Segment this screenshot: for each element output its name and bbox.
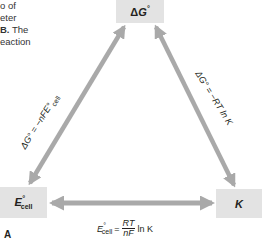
node-k: K <box>216 189 262 218</box>
fraction-rt-nf: RT nF <box>122 219 136 238</box>
e-cell-label: E°cell <box>15 195 33 210</box>
node-e-cell: E°cell <box>0 187 47 218</box>
delta-g-label: ΔKG° <box>130 5 149 18</box>
equation-ecell-k: E°cell = RT nF ln K <box>97 219 153 238</box>
node-delta-g: ΔKG° <box>116 0 164 23</box>
k-label: K <box>235 198 243 210</box>
panel-label: A <box>4 229 11 240</box>
